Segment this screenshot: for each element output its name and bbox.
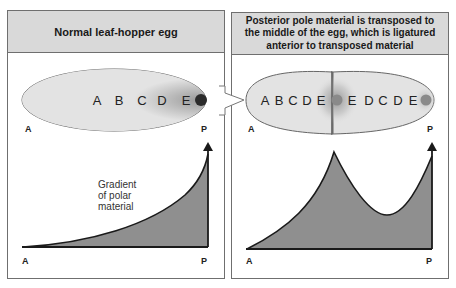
graph-anterior-label: A bbox=[246, 256, 253, 266]
svg-text:E: E bbox=[348, 93, 357, 108]
svg-text:C: C bbox=[137, 93, 146, 108]
transposed-pole-material bbox=[332, 95, 343, 106]
bimodal-gradient-graph bbox=[246, 142, 437, 249]
svg-text:Gradient: Gradient bbox=[98, 179, 137, 190]
svg-text:A: A bbox=[93, 93, 102, 108]
posterior-label: P bbox=[201, 124, 207, 134]
svg-text:E: E bbox=[409, 93, 418, 108]
svg-text:E: E bbox=[317, 93, 326, 108]
svg-text:E: E bbox=[182, 93, 191, 108]
axis-arrow-icon bbox=[203, 142, 213, 151]
graph-posterior-label: P bbox=[426, 256, 432, 266]
axis-arrow-icon bbox=[427, 142, 437, 151]
posterior-pole-material bbox=[421, 95, 432, 106]
svg-text:D: D bbox=[364, 93, 373, 108]
anterior-label: A bbox=[25, 124, 32, 134]
graph-posterior-label: P bbox=[201, 256, 207, 266]
svg-text:A: A bbox=[261, 93, 270, 108]
arrow-right-icon bbox=[219, 86, 244, 115]
posterior-label: P bbox=[427, 124, 433, 134]
posterior-pole-material bbox=[195, 94, 207, 106]
svg-text:B: B bbox=[115, 93, 124, 108]
svg-text:C: C bbox=[378, 93, 387, 108]
gradient-label: Gradient of polar material bbox=[98, 179, 137, 212]
anterior-label: A bbox=[248, 124, 255, 134]
svg-text:D: D bbox=[302, 93, 311, 108]
svg-text:D: D bbox=[157, 93, 166, 108]
svg-text:B: B bbox=[275, 93, 284, 108]
svg-text:material: material bbox=[98, 201, 134, 212]
svg-text:D: D bbox=[393, 93, 402, 108]
svg-text:of polar: of polar bbox=[98, 190, 132, 201]
svg-text:C: C bbox=[288, 93, 297, 108]
graph-anterior-label: A bbox=[22, 256, 29, 266]
diagram-canvas: A B C D E A P Gradient of polar material… bbox=[0, 0, 456, 288]
